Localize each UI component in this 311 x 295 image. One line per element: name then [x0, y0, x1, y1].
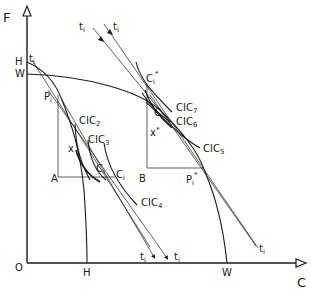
f-axis-arrow-icon: [23, 6, 31, 16]
price-line-world-2: [104, 24, 258, 248]
arrow-head-icon: [98, 36, 104, 42]
c-axis-arrow-icon: [296, 259, 306, 267]
y-axis-w-label: W: [15, 68, 25, 79]
axes: [23, 6, 306, 267]
ti-label-top-1: ti: [79, 21, 85, 34]
cic5-label: CIC5: [203, 143, 224, 156]
cic4-label: CIC4: [141, 197, 163, 210]
cic6-label: CIC6: [176, 116, 198, 129]
point-ci-star-label: Ci*: [146, 70, 159, 86]
cic7-label: CIC7: [176, 102, 197, 115]
trade-diagram: F C O H W H W Pi Pi* A B x x* Ci Ci Ci* …: [0, 0, 311, 295]
x-axis-h-label: H: [83, 267, 91, 278]
ppf-home-curve: [27, 62, 87, 263]
point-ci-prime-star-label: Ci: [154, 107, 163, 120]
price-line-home-2: [48, 90, 167, 258]
origin-label: O: [15, 262, 23, 273]
ti-label-bottom-1: ti: [140, 251, 146, 264]
ti-label-top-2: ti: [113, 21, 119, 34]
y-axis-h-label: H: [15, 56, 23, 67]
price-line-pstar: [150, 95, 256, 246]
x-axis-label: C: [297, 275, 306, 290]
point-pi-label: Pi: [44, 91, 52, 104]
point-a-label: A: [51, 173, 58, 184]
point-b-label: B: [139, 173, 146, 184]
ti-label-right: ti: [259, 243, 265, 256]
point-xstar-label: x*: [150, 126, 160, 138]
point-x-label: x: [68, 143, 74, 154]
cic2-label: CIC2: [79, 115, 100, 128]
y-axis-label: F: [3, 10, 10, 25]
cic3-label: CIC3: [88, 134, 109, 147]
ti-label-top-left: ti: [29, 53, 35, 66]
price-line-home: [32, 60, 150, 247]
ti-label-bottom-2: ti: [174, 251, 180, 264]
x-axis-w-label: W: [222, 267, 232, 278]
point-pstar-label: Pi*: [186, 171, 198, 187]
